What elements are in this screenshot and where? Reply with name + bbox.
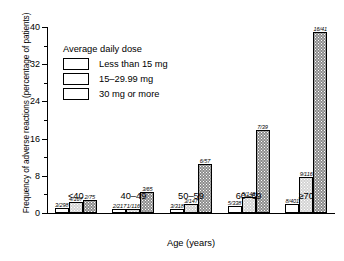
legend-title: Average daily dose xyxy=(63,44,168,54)
y-tick-major xyxy=(42,27,47,28)
legend-entries: Less than 15 mg15–29.99 mg30 mg or more xyxy=(63,58,168,100)
bar[interactable]: 2/75 xyxy=(83,200,97,213)
bar[interactable]: 3/298 xyxy=(55,208,69,213)
bar[interactable]: 3/147 xyxy=(184,204,198,213)
legend-item[interactable]: 15–29.99 mg xyxy=(63,73,168,85)
bar-value-label: 2/75 xyxy=(85,194,96,200)
legend-item[interactable]: Less than 15 mg xyxy=(63,58,168,70)
y-tick-major xyxy=(42,213,47,214)
x-axis-line xyxy=(47,213,335,214)
y-tick-label: 32 xyxy=(30,59,40,69)
bar-value-label: 16/41 xyxy=(313,26,327,32)
x-category-label: 60–69 xyxy=(236,191,262,201)
bar-value-label: 3/318 xyxy=(170,203,184,209)
bar[interactable]: 2/217 xyxy=(112,209,126,213)
bar-group: 3/2984/1672/75 xyxy=(55,200,97,213)
y-tick-major xyxy=(42,64,47,65)
chart-figure: Frequency of adverse reactions (percenta… xyxy=(0,0,344,261)
x-axis-title: Age (years) xyxy=(47,238,335,248)
y-tick-label: 8 xyxy=(35,171,40,181)
legend-label: Less than 15 mg xyxy=(99,59,168,69)
bar[interactable]: 8/401 xyxy=(285,204,299,213)
bar-value-label: 7/39 xyxy=(257,124,268,130)
legend-swatch xyxy=(63,73,89,85)
legend-item[interactable]: 30 mg or more xyxy=(63,88,168,100)
bar[interactable]: 5/338 xyxy=(228,206,242,213)
bar-value-label: 8/401 xyxy=(285,198,299,204)
y-tick-label: 24 xyxy=(30,96,40,106)
x-category-label: ≥70 xyxy=(298,191,313,201)
bar-value-label: 6/57 xyxy=(200,158,211,164)
legend: Average daily dose Less than 15 mg15–29.… xyxy=(63,44,168,100)
bar-value-label: 1/116 xyxy=(127,203,140,209)
bar[interactable]: 3/318 xyxy=(170,209,184,213)
y-tick-minor xyxy=(44,157,47,158)
x-category-label: <40 xyxy=(68,191,84,201)
y-tick-minor xyxy=(44,46,47,47)
bar-value-label: 9/116 xyxy=(300,171,313,177)
y-axis-line xyxy=(47,27,48,213)
bar[interactable]: 6/57 xyxy=(198,164,212,213)
bar[interactable]: 16/41 xyxy=(313,32,327,213)
legend-swatch xyxy=(63,88,89,100)
bar-value-label: 3/298 xyxy=(55,202,69,208)
legend-label: 30 mg or more xyxy=(99,89,159,99)
y-tick-major xyxy=(42,176,47,177)
y-tick-label: 0 xyxy=(35,208,40,218)
y-tick-minor xyxy=(44,120,47,121)
bar[interactable]: 1/116 xyxy=(126,209,140,213)
y-tick-label: 40 xyxy=(30,22,40,32)
y-tick-minor xyxy=(44,83,47,84)
x-category-label: 40–49 xyxy=(120,191,146,201)
y-tick-label: 16 xyxy=(30,134,40,144)
x-category-label: 50–59 xyxy=(178,191,204,201)
y-tick-major xyxy=(42,101,47,102)
bar-group: 3/3183/1476/57 xyxy=(170,164,212,213)
bar-group: 8/4019/11616/41 xyxy=(285,32,327,213)
legend-swatch xyxy=(63,58,89,70)
bar[interactable]: 4/167 xyxy=(69,202,83,213)
legend-label: 15–29.99 mg xyxy=(99,74,153,84)
y-axis-title: Frequency of adverse reactions (percenta… xyxy=(21,3,31,223)
bar-value-label: 2/217 xyxy=(113,203,127,209)
y-tick-major xyxy=(42,139,47,140)
y-tick-minor xyxy=(44,194,47,195)
